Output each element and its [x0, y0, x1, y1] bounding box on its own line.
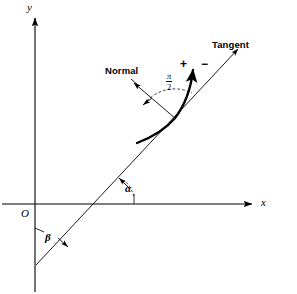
- right-angle-fraction: π 2: [166, 72, 172, 92]
- minus-sign-label: −: [201, 58, 208, 70]
- normal-label-leader-group: [131, 79, 139, 86]
- origin-label: O: [21, 208, 29, 219]
- right-angle-arc-pointer: [143, 98, 152, 105]
- plus-sign-label: +: [180, 58, 187, 70]
- right-angle-denominator: 2: [166, 83, 172, 92]
- beta-label: β: [45, 232, 51, 243]
- tangent-label: Tangent: [212, 40, 249, 50]
- y-axis-label: y: [27, 2, 32, 13]
- right-angle-numerator: π: [166, 72, 172, 81]
- tangent-line: [36, 49, 238, 265]
- figure-canvas: y x O Tangent Normal α β π 2 + −: [0, 0, 297, 294]
- beta-pointer: [58, 238, 68, 247]
- normal-label-leader: [131, 79, 139, 86]
- diagram-svg: [0, 0, 297, 294]
- tangent-line-group: [36, 49, 238, 265]
- normal-label: Normal: [105, 66, 138, 76]
- alpha-label: α: [125, 183, 131, 194]
- x-axis-label: x: [261, 197, 266, 208]
- beta-angle-group: [35, 228, 68, 247]
- beta-axis-tick: [35, 228, 44, 232]
- axes-group: [2, 18, 252, 292]
